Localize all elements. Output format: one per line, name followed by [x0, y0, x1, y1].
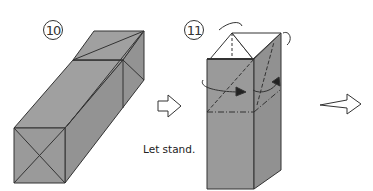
origami-diagram: 10 11 Let stand. [0, 0, 373, 191]
step-number-11: 11 [184, 20, 204, 40]
step-number-10: 10 [43, 20, 63, 40]
step-10-box [14, 31, 144, 183]
step-11-box [202, 23, 290, 189]
let-stand-caption: Let stand. [143, 143, 195, 155]
next-arrow-icon-2 [320, 94, 361, 114]
next-arrow-icon [158, 95, 181, 117]
